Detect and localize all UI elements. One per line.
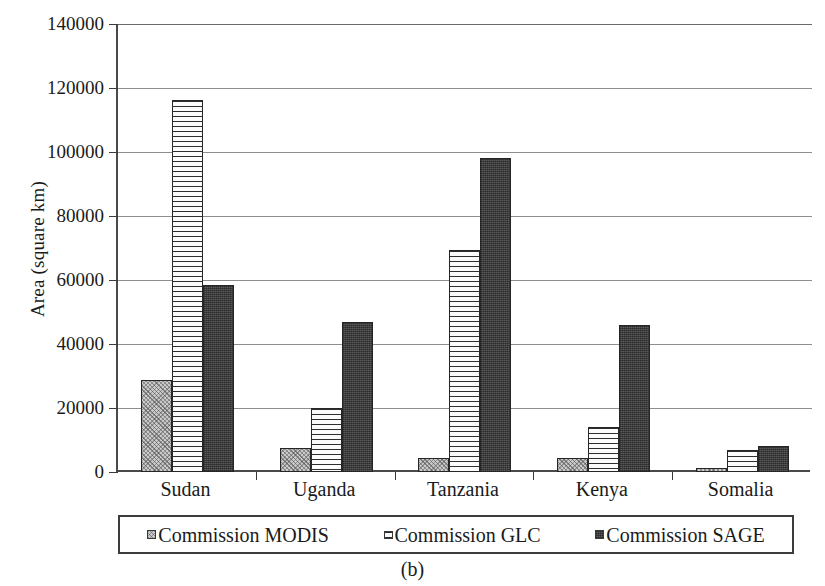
bar (619, 325, 650, 472)
legend-label: Commission MODIS (158, 525, 329, 545)
bar-group (118, 24, 257, 472)
bar (172, 100, 203, 472)
legend-item: Commission SAGE (595, 525, 764, 545)
bar (758, 446, 789, 472)
x-axis-category-label: Tanzania (394, 478, 533, 508)
y-axis-tick (109, 408, 118, 409)
legend-label: Commission GLC (395, 525, 541, 545)
y-axis-tick (109, 24, 118, 25)
y-axis-tick (109, 152, 118, 153)
bar (480, 158, 511, 472)
bar (727, 450, 758, 472)
bar (449, 250, 480, 472)
bar-group (534, 24, 673, 472)
bar-group (396, 24, 535, 472)
x-axis-category-label: Sudan (116, 478, 255, 508)
figure-container: Area (square km) 14000012000010000080000… (0, 0, 825, 586)
legend-swatch-icon (384, 531, 393, 539)
legend-swatch-icon (147, 530, 156, 539)
y-axis-tick-label: 140000 (47, 13, 104, 35)
y-axis-tick (109, 472, 118, 473)
bar (696, 468, 727, 472)
x-axis-category-label: Uganda (255, 478, 394, 508)
y-axis-tick-label: 0 (95, 461, 105, 483)
bar-group (257, 24, 396, 472)
x-axis-category-label: Kenya (532, 478, 671, 508)
bar (280, 448, 311, 472)
bar (557, 458, 588, 472)
legend-label: Commission SAGE (606, 525, 764, 545)
y-axis-tick (109, 88, 118, 89)
y-axis-tick (109, 344, 118, 345)
x-axis-labels: SudanUgandaTanzaniaKenyaSomalia (116, 478, 810, 508)
y-axis-tick-label: 20000 (57, 397, 105, 419)
bar-groups (118, 24, 812, 472)
x-axis-category-label: Somalia (671, 478, 810, 508)
bar (342, 322, 373, 472)
bar (311, 408, 342, 472)
figure-caption: (b) (0, 558, 825, 581)
y-axis-tick-label: 40000 (57, 333, 105, 355)
y-axis-tick (109, 216, 118, 217)
y-axis-tick-label: 100000 (47, 141, 104, 163)
bar (203, 285, 234, 472)
y-axis-tick-label: 120000 (47, 77, 104, 99)
y-axis-tick (109, 280, 118, 281)
y-axis-tick-label: 60000 (57, 269, 105, 291)
bar (418, 458, 449, 472)
legend-item: Commission MODIS (147, 525, 329, 545)
legend-swatch-icon (595, 530, 604, 539)
y-axis-label: Area (square km) (27, 119, 49, 379)
chart-legend: Commission MODISCommission GLCCommission… (118, 515, 794, 554)
bar-group (673, 24, 812, 472)
legend-item: Commission GLC (384, 525, 541, 545)
y-axis-tick-label: 80000 (57, 205, 105, 227)
plot-area: 140000120000100000800006000040000200000 (116, 24, 810, 472)
bar (588, 427, 619, 472)
bar (141, 380, 172, 472)
